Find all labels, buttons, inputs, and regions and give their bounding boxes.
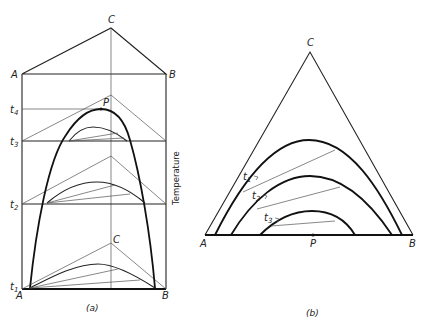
label-isotherm-t2: t2 — [252, 190, 261, 203]
section-curve-t1 — [30, 264, 155, 288]
label-t4: t4 — [10, 104, 18, 117]
ternary-phase-diagram: C A B P C A B t4 t3 t2 t1 Temperature (a… — [0, 0, 427, 325]
section-curve-t2 — [47, 182, 145, 203]
label-c-top: C — [108, 14, 115, 25]
arrow-t1-icon — [254, 176, 258, 180]
tie-line-t2-2 — [47, 194, 130, 203]
section-triangle-t3 — [22, 95, 166, 141]
isotherm-t2 — [231, 176, 392, 235]
point-p-marker-b — [311, 233, 314, 236]
label-c-bottom: C — [113, 234, 120, 245]
prism-top-triangle — [22, 28, 166, 74]
tie-line-t2-1 — [47, 185, 115, 203]
section-curve-t3 — [69, 127, 127, 141]
label-p-b: P — [310, 238, 317, 249]
label-p-a: P — [103, 97, 110, 108]
isotherm-t1 — [215, 140, 402, 235]
label-a-b: A — [199, 238, 207, 249]
label-isotherm-t3: t3 — [264, 212, 272, 225]
label-t2: t2 — [10, 199, 19, 212]
label-t1: t1 — [10, 281, 18, 294]
tie-line-t1-2 — [30, 280, 140, 288]
tie-line-b-t3 — [271, 221, 335, 226]
label-c-b: C — [307, 37, 314, 48]
binodal-dome — [30, 109, 155, 288]
caption-b: (b) — [306, 308, 319, 318]
section-triangle-t1 — [22, 243, 166, 289]
label-t3: t3 — [10, 136, 18, 149]
label-b-bottom: B — [162, 290, 169, 301]
ternary-triangle — [205, 52, 413, 235]
panel-b-ternary: C A B P t1 t2 t3 (b) — [199, 37, 416, 318]
caption-a: (a) — [86, 303, 99, 313]
panel-a-prism: C A B P C A B t4 t3 t2 t1 Temperature (a… — [10, 14, 181, 313]
label-b-top: B — [169, 69, 176, 80]
label-b-b: B — [409, 238, 416, 249]
label-isotherm-t1: t1 — [243, 171, 251, 184]
axis-label-temperature: Temperature — [171, 151, 181, 206]
tie-line-b-t1 — [243, 150, 335, 192]
label-a-top: A — [10, 69, 18, 80]
